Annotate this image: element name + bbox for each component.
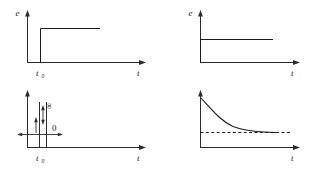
width-arrow-left-icon <box>17 133 22 137</box>
y-axis-arrow-icon <box>25 10 30 17</box>
x-axis-label: t <box>291 68 294 78</box>
step-zero-svg: e t <box>155 0 311 85</box>
tick-label-t0: t <box>36 68 39 78</box>
width-arrow-right-icon <box>58 133 63 137</box>
x-axis-arrow-icon <box>293 60 300 65</box>
tick-label-t0-subscript: 0 <box>41 73 44 79</box>
x-axis-arrow-icon <box>139 60 146 65</box>
zero-width-label: 0 <box>52 123 57 133</box>
exp-decay-svg: t <box>155 85 311 170</box>
infinity-label: ∞ <box>44 103 54 109</box>
height-arrow-down-icon <box>41 120 45 125</box>
tick-label-t0-subscript: 0 <box>41 158 44 164</box>
chart-step-zero: e t <box>155 0 311 85</box>
y-axis-label: e <box>189 8 193 18</box>
y-axis-arrow-icon <box>198 10 203 17</box>
x-axis-arrow-icon <box>139 145 146 150</box>
chart-step-delayed: e t t 0 <box>0 0 155 85</box>
inner-arrow-up-icon <box>34 117 38 122</box>
y-axis-label: e <box>16 8 20 18</box>
chart-impulse: ∞ 0 t t 0 <box>0 85 155 170</box>
step-signal-trace <box>201 40 274 63</box>
y-axis-arrow-icon <box>198 90 203 97</box>
impulse-svg: ∞ 0 t t 0 <box>0 85 155 170</box>
y-axis-arrow-icon <box>25 90 30 97</box>
figure-root: e t t 0 e t <box>0 0 311 170</box>
x-axis-label: t <box>291 153 294 163</box>
x-axis-arrow-icon <box>293 145 300 150</box>
chart-exp-decay: t <box>155 85 311 170</box>
step-signal-trace <box>41 29 101 63</box>
exponential-decay-trace <box>201 98 277 133</box>
tick-label-t0: t <box>36 153 39 163</box>
x-axis-label: t <box>137 68 140 78</box>
step-delayed-svg: e t t 0 <box>0 0 155 85</box>
x-axis-label: t <box>137 153 140 163</box>
